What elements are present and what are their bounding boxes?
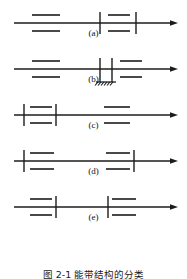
panel-d: (d) <box>0 138 187 184</box>
panel-e: (e) <box>0 184 187 230</box>
axis-arrowhead <box>170 20 178 26</box>
panel-d-label: (d) <box>0 166 187 176</box>
panel-c-diagram <box>0 92 187 138</box>
panel-d-diagram <box>0 138 187 184</box>
panel-list: (a)(b)(c)(d)(e) <box>0 0 187 230</box>
axis-arrowhead <box>170 66 178 72</box>
panel-a-diagram <box>0 0 187 46</box>
panel-b-label: (b) <box>0 74 187 84</box>
panel-a-label: (a) <box>0 28 187 38</box>
axis-arrowhead <box>170 204 178 210</box>
panel-e-diagram <box>0 184 187 230</box>
panel-b: (b) <box>0 46 187 92</box>
axis-arrowhead <box>170 158 178 164</box>
panel-c-label: (c) <box>0 120 187 130</box>
figure-caption: 图 2-1 能带结构的分类 <box>0 268 187 279</box>
panel-a: (a) <box>0 0 187 46</box>
panel-e-label: (e) <box>0 212 187 222</box>
panel-c: (c) <box>0 92 187 138</box>
axis-arrowhead <box>170 112 178 118</box>
energy-band-figure: (a)(b)(c)(d)(e) 图 2-1 能带结构的分类 <box>0 0 187 279</box>
panel-b-diagram <box>0 46 187 92</box>
